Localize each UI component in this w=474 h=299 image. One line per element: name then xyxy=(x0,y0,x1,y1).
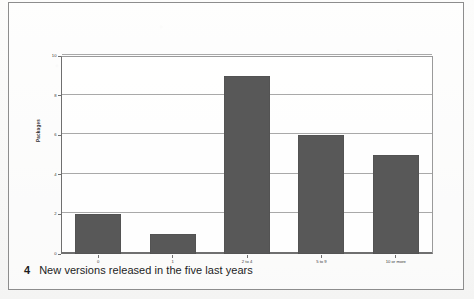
caption-number: 4 xyxy=(24,264,30,276)
gridline-2 xyxy=(62,212,432,213)
document-page: Packages 0246810 012 to 45 to 910 or mor… xyxy=(0,0,474,299)
x-tick-mark xyxy=(172,255,173,258)
y-tick-label: 2 xyxy=(54,212,56,216)
bar-chart: Packages 0246810 012 to 45 to 910 or mor… xyxy=(9,3,465,291)
gridline-8 xyxy=(62,94,432,95)
gridline-0 xyxy=(62,252,432,253)
x-tick-mark xyxy=(98,255,99,258)
x-tick-label: 5 to 9 xyxy=(316,260,326,264)
y-tick-label: 8 xyxy=(54,94,56,98)
caption-text: New versions released in the five last y… xyxy=(39,264,253,276)
y-axis: 0246810 xyxy=(9,56,61,254)
y-tick-label: 4 xyxy=(54,173,56,177)
x-tick-mark xyxy=(321,255,322,258)
y-tick-label: 10 xyxy=(52,54,57,58)
gridline-10 xyxy=(62,54,432,55)
gridline-4 xyxy=(62,173,432,174)
x-tick: 5 to 9 xyxy=(284,255,358,269)
gridline-6 xyxy=(62,133,432,134)
x-tick-mark xyxy=(395,255,396,258)
x-tick: 10 or more xyxy=(359,255,433,269)
y-tick-label: 0 xyxy=(54,252,56,256)
x-tick-label: 10 or more xyxy=(386,260,406,264)
y-tick-label: 6 xyxy=(54,133,56,137)
x-tick-mark xyxy=(247,255,248,258)
figure-caption: 4 New versions released in the five last… xyxy=(24,264,253,276)
figure-frame: Packages 0246810 012 to 45 to 910 or mor… xyxy=(8,2,464,290)
gridlines xyxy=(62,57,432,253)
plot-area xyxy=(61,56,433,254)
